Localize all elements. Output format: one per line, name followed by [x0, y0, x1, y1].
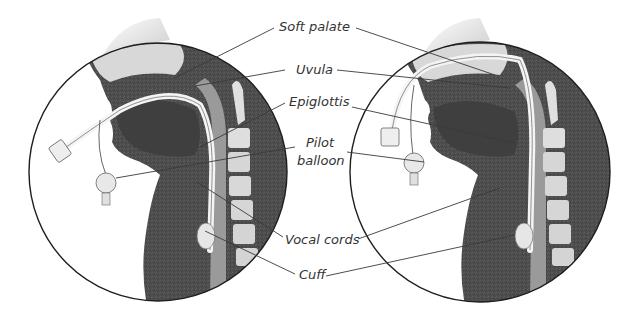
label-balloon: balloon [297, 153, 343, 169]
tube-connector [381, 128, 399, 146]
label-pilot: Pilot [303, 135, 337, 151]
intubation-diagram: Soft palate Uvula Epiglottis Pilot ballo… [0, 0, 640, 323]
pilot-balloon-shape [404, 153, 424, 173]
pilot-balloon-shape [96, 173, 116, 193]
right-panel-nasal-intubation [350, 18, 620, 320]
label-soft-palate: Soft palate [279, 19, 350, 35]
label-epiglottis: Epiglottis [289, 94, 349, 110]
cuff-shape [197, 223, 215, 249]
cuff-shape [515, 223, 533, 249]
left-panel-oral-intubation [29, 18, 300, 320]
label-cuff: Cuff [299, 267, 326, 283]
label-uvula: Uvula [296, 62, 333, 78]
label-vocal-cords: Vocal cords [285, 232, 359, 248]
